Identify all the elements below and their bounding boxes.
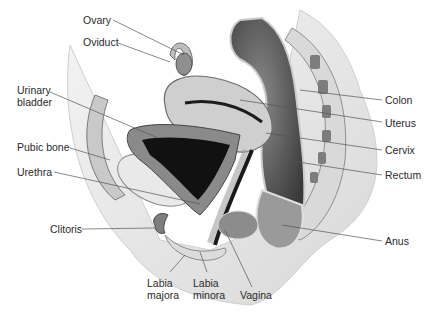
label-clitoris: Clitoris (50, 223, 82, 235)
label-urinary-bladder-line2: bladder (17, 96, 52, 108)
label-colon: Colon (385, 94, 412, 106)
label-rectum: Rectum (385, 169, 421, 181)
label-pubic-bone: Pubic bone (17, 141, 70, 153)
label-cervix: Cervix (385, 144, 415, 156)
anatomy-illustration (0, 0, 430, 320)
label-ovary: Ovary (83, 14, 111, 26)
label-labia-minora-line2: minora (193, 289, 225, 301)
label-labia-minora-line1: Labia (193, 277, 219, 289)
label-urinary-bladder-line1: Urinary (17, 84, 51, 96)
label-vagina: Vagina (240, 289, 272, 301)
label-anus: Anus (385, 235, 409, 247)
label-uterus: Uterus (385, 117, 416, 129)
anatomy-diagram: Ovary Oviduct Urinary bladder Pubic bone… (0, 0, 430, 320)
label-oviduct: Oviduct (83, 36, 119, 48)
label-labia-majora-line1: Labia (147, 277, 173, 289)
label-urethra: Urethra (17, 166, 52, 178)
ovary (176, 53, 192, 75)
label-labia-majora-line2: majora (147, 289, 179, 301)
